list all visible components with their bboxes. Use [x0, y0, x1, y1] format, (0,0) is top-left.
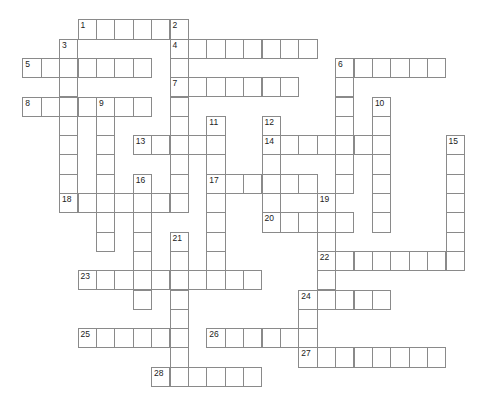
crossword-cell[interactable]: [335, 97, 354, 117]
crossword-cell[interactable]: [317, 290, 336, 310]
crossword-cell[interactable]: [335, 77, 354, 97]
crossword-cell[interactable]: [372, 212, 391, 232]
crossword-cell[interactable]: [354, 290, 373, 310]
crossword-cell[interactable]: [206, 270, 225, 290]
crossword-cell[interactable]: [372, 290, 391, 310]
crossword-cell[interactable]: [114, 58, 133, 78]
crossword-cell[interactable]: [317, 270, 336, 290]
crossword-cell[interactable]: 5: [22, 58, 41, 78]
crossword-cell[interactable]: [59, 154, 78, 174]
crossword-cell[interactable]: [390, 58, 409, 78]
crossword-cell[interactable]: [114, 328, 133, 348]
crossword-cell[interactable]: 7: [170, 77, 189, 97]
crossword-cell[interactable]: [114, 19, 133, 39]
crossword-cell[interactable]: [170, 193, 189, 213]
crossword-cell[interactable]: [170, 270, 189, 290]
crossword-cell[interactable]: [427, 251, 446, 271]
crossword-cell[interactable]: [78, 58, 97, 78]
crossword-cell[interactable]: [243, 270, 262, 290]
crossword-cell[interactable]: [188, 77, 207, 97]
crossword-cell[interactable]: [188, 270, 207, 290]
crossword-cell[interactable]: [243, 367, 262, 387]
crossword-cell[interactable]: [225, 270, 244, 290]
crossword-cell[interactable]: [78, 97, 97, 117]
crossword-cell[interactable]: [170, 58, 189, 78]
crossword-cell[interactable]: [59, 77, 78, 97]
crossword-cell[interactable]: [335, 116, 354, 136]
crossword-cell[interactable]: 25: [78, 328, 97, 348]
crossword-cell[interactable]: [354, 347, 373, 367]
crossword-cell[interactable]: [170, 328, 189, 348]
crossword-cell[interactable]: [372, 251, 391, 271]
crossword-cell[interactable]: [170, 135, 189, 155]
crossword-cell[interactable]: 9: [96, 97, 115, 117]
crossword-cell[interactable]: [446, 251, 465, 271]
crossword-cell[interactable]: [114, 97, 133, 117]
crossword-cell[interactable]: [170, 290, 189, 310]
crossword-cell[interactable]: [335, 212, 354, 232]
crossword-cell[interactable]: [206, 39, 225, 59]
crossword-cell[interactable]: [446, 193, 465, 213]
crossword-cell[interactable]: [262, 77, 281, 97]
crossword-cell[interactable]: [151, 193, 170, 213]
crossword-cell[interactable]: [372, 347, 391, 367]
crossword-cell[interactable]: [133, 212, 152, 232]
crossword-cell[interactable]: 17: [206, 174, 225, 194]
crossword-cell[interactable]: [170, 116, 189, 136]
crossword-cell[interactable]: [188, 39, 207, 59]
crossword-cell[interactable]: [446, 212, 465, 232]
crossword-cell[interactable]: [96, 154, 115, 174]
crossword-cell[interactable]: [133, 270, 152, 290]
crossword-cell[interactable]: [96, 212, 115, 232]
crossword-cell[interactable]: [354, 251, 373, 271]
crossword-cell[interactable]: [243, 328, 262, 348]
crossword-cell[interactable]: [335, 174, 354, 194]
crossword-cell[interactable]: [133, 58, 152, 78]
crossword-cell[interactable]: [96, 270, 115, 290]
crossword-cell[interactable]: [262, 193, 281, 213]
crossword-cell[interactable]: [372, 154, 391, 174]
crossword-cell[interactable]: [96, 232, 115, 252]
crossword-cell[interactable]: [114, 193, 133, 213]
crossword-cell[interactable]: [317, 212, 336, 232]
crossword-cell[interactable]: 28: [151, 367, 170, 387]
crossword-cell[interactable]: [59, 135, 78, 155]
crossword-cell[interactable]: [446, 174, 465, 194]
crossword-cell[interactable]: [317, 232, 336, 252]
crossword-cell[interactable]: [170, 154, 189, 174]
crossword-cell[interactable]: [409, 251, 428, 271]
crossword-cell[interactable]: [188, 367, 207, 387]
crossword-cell[interactable]: 24: [298, 290, 317, 310]
crossword-cell[interactable]: [96, 174, 115, 194]
crossword-cell[interactable]: [225, 367, 244, 387]
crossword-cell[interactable]: [446, 154, 465, 174]
crossword-cell[interactable]: [372, 116, 391, 136]
crossword-cell[interactable]: [372, 193, 391, 213]
crossword-cell[interactable]: [335, 290, 354, 310]
crossword-cell[interactable]: [170, 251, 189, 271]
crossword-cell[interactable]: [151, 328, 170, 348]
crossword-cell[interactable]: [225, 77, 244, 97]
crossword-cell[interactable]: 2: [170, 19, 189, 39]
crossword-cell[interactable]: [133, 193, 152, 213]
crossword-cell[interactable]: 14: [262, 135, 281, 155]
crossword-cell[interactable]: [59, 58, 78, 78]
crossword-cell[interactable]: [427, 347, 446, 367]
crossword-cell[interactable]: [170, 367, 189, 387]
crossword-cell[interactable]: [59, 116, 78, 136]
crossword-cell[interactable]: [96, 193, 115, 213]
crossword-cell[interactable]: 16: [133, 174, 152, 194]
crossword-cell[interactable]: [206, 154, 225, 174]
crossword-cell[interactable]: [225, 328, 244, 348]
crossword-cell[interactable]: [133, 251, 152, 271]
crossword-cell[interactable]: [243, 174, 262, 194]
crossword-cell[interactable]: [354, 135, 373, 155]
crossword-cell[interactable]: [78, 193, 97, 213]
crossword-cell[interactable]: 8: [22, 97, 41, 117]
crossword-cell[interactable]: [133, 232, 152, 252]
crossword-cell[interactable]: [427, 58, 446, 78]
crossword-cell[interactable]: 1: [78, 19, 97, 39]
crossword-cell[interactable]: [372, 58, 391, 78]
crossword-cell[interactable]: [206, 193, 225, 213]
crossword-cell[interactable]: [298, 135, 317, 155]
